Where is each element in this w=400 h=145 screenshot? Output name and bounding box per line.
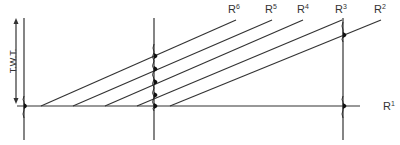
twt-axis-label: T.W.T. — [8, 41, 18, 81]
label-r6: R6 — [228, 4, 240, 15]
wavelet-peak-r4 — [154, 79, 158, 85]
label-r2: R2 — [374, 4, 386, 15]
reflector-r3-line — [137, 20, 342, 106]
twt-arrow-head-down — [14, 98, 19, 104]
wavelet-peak-r1-trace2 — [154, 103, 158, 109]
wavelet-peak-r2-trace3 — [343, 32, 347, 38]
reflector-r2-line — [170, 20, 381, 106]
reflector-r6-line — [41, 20, 236, 106]
wavelet-peak-r6 — [154, 53, 158, 59]
seismic-reflector-diagram — [0, 0, 400, 145]
label-r1: R1 — [383, 101, 395, 112]
label-r5: R5 — [265, 4, 277, 15]
label-r3: R3 — [335, 4, 347, 15]
twt-arrow-head-up — [14, 18, 19, 24]
reflector-r5-line — [73, 20, 272, 106]
wavelet-peak-r1-trace3 — [343, 103, 347, 109]
wavelet-peak-trace1 — [24, 103, 27, 109]
wavelet-peak-r5 — [154, 66, 158, 72]
reflector-r4-line — [105, 20, 303, 106]
label-r4: R4 — [297, 4, 309, 15]
